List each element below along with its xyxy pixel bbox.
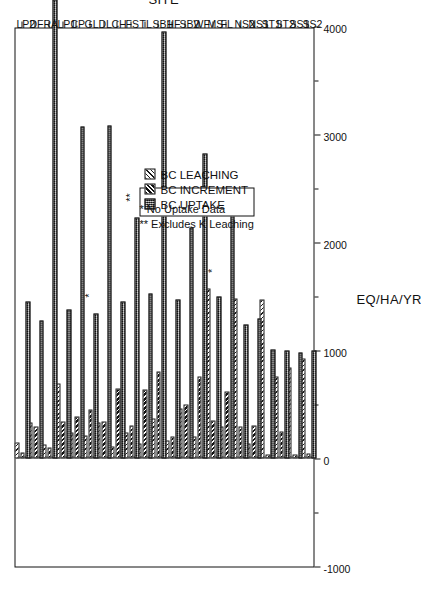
category-label-lp1: LP1	[57, 17, 76, 29]
bar-bc-increment-ch	[115, 388, 120, 458]
bar-bc-uptake-lp1	[66, 309, 71, 458]
value-axis-title: EQ/HA/YR	[356, 291, 421, 306]
category-label-ra: RA	[43, 17, 58, 29]
bar-bc-increment-lp2	[20, 452, 25, 458]
bar-bc-increment-wf	[197, 376, 202, 458]
category-label-lp2: LP2	[16, 17, 35, 29]
bar-bc-increment-ra	[47, 447, 52, 458]
bar-bc-increment-st1	[265, 454, 270, 458]
category-label-gl: GL	[84, 17, 98, 29]
bar-bc-increment-fl	[224, 391, 229, 458]
legend-item-bc-leaching: BC LEACHING	[144, 166, 244, 181]
value-tick-label--1000: -1000	[323, 562, 350, 574]
bar-bc-uptake-gl	[93, 313, 98, 458]
bar-bc-increment-ms	[210, 420, 215, 458]
bar-bc-uptake-ns1	[257, 318, 262, 458]
bar-bc-increment-fs	[129, 425, 134, 458]
bar-bc-uptake-tl	[148, 293, 153, 458]
plot-area: ****	[14, 27, 314, 567]
category-label-sb1: SB1	[152, 17, 172, 29]
bar-bc-increment-cp	[74, 416, 79, 458]
category-label-sb2: SB2	[179, 17, 199, 29]
value-minor-tick	[314, 512, 318, 513]
bar-bc-uptake-dl	[107, 125, 112, 458]
bar-bc-uptake-sb1	[161, 31, 166, 458]
bar-bc-leaching-lp2	[14, 442, 19, 458]
category-axis-title: SITE	[148, 0, 179, 6]
value-tick--1000	[314, 566, 320, 567]
bar-bc-uptake-ms	[216, 296, 221, 458]
bar-bc-uptake-st1	[270, 349, 275, 458]
bar-bc-uptake-lp2	[25, 301, 30, 458]
bar-bc-increment-ss2	[306, 453, 311, 458]
bar-bc-uptake-df	[39, 320, 44, 458]
bar-bc-uptake-st2	[284, 350, 289, 458]
category-label-tl: TL	[139, 17, 151, 29]
bar-bc-uptake-ch	[120, 301, 125, 458]
annotation-gl: *	[84, 293, 92, 297]
value-tick-label-3000: 3000	[323, 130, 346, 142]
value-tick-label-1000: 1000	[323, 346, 346, 358]
bar-bc-increment-dl	[101, 421, 106, 458]
bar-bc-increment-ss1	[292, 454, 297, 458]
category-label-ns2: NS2	[234, 17, 254, 29]
bar-bc-increment-hf	[170, 436, 175, 458]
bar-bc-uptake-ns2	[243, 324, 248, 458]
bar-bc-uptake-ra	[52, 0, 57, 458]
category-label-fs: FS	[125, 17, 138, 29]
category-label-dl: DL	[98, 17, 111, 29]
bar-bc-increment-ns2	[238, 426, 243, 458]
value-tick-2000	[314, 242, 320, 243]
value-minor-tick	[314, 404, 318, 405]
legend-label-bc-leaching: BC LEACHING	[160, 168, 238, 180]
annotation-ms: *	[207, 268, 215, 272]
legend-label-bc-increment: BC INCREMENT	[160, 183, 248, 195]
value-minor-tick	[314, 296, 318, 297]
value-tick-0	[314, 458, 320, 459]
bar-bc-increment-sb2	[183, 404, 188, 458]
value-minor-tick	[314, 80, 318, 81]
annotation-fs: **	[125, 193, 133, 202]
bar-bc-increment-lp1	[60, 421, 65, 458]
bar-bc-increment-st2	[279, 431, 284, 458]
value-tick-label-4000: 4000	[323, 22, 346, 34]
value-tick-label-0: 0	[323, 454, 329, 466]
bar-bc-increment-ns1	[251, 425, 256, 458]
legend-swatch-bc-increment	[144, 183, 155, 194]
legend-item-bc-increment: BC INCREMENT	[144, 181, 244, 196]
bar-bc-uptake-hf	[175, 299, 180, 458]
value-tick-label-2000: 2000	[323, 238, 346, 250]
legend-swatch-bc-leaching	[144, 168, 155, 179]
value-minor-tick	[314, 188, 318, 189]
value-tick-1000	[314, 350, 320, 351]
footnote-excludes-k-leaching: ** Excludes K Leaching	[139, 217, 249, 232]
bar-bc-uptake-ss1	[298, 352, 303, 458]
bar-bc-increment-tl	[142, 389, 147, 458]
bar-bc-increment-gl	[88, 409, 93, 458]
bar-bc-uptake-fl	[230, 204, 235, 458]
bar-bc-uptake-sb2	[189, 227, 194, 458]
bar-bc-increment-df	[33, 426, 38, 458]
bar-bc-increment-sb1	[156, 371, 161, 458]
footnote-no-uptake-data: * No Uptake Data	[139, 202, 249, 217]
category-label-ch: CH	[111, 17, 126, 29]
bar-bc-uptake-fs	[134, 217, 139, 458]
bar-bc-uptake-cp	[80, 126, 85, 458]
value-tick-3000	[314, 134, 320, 135]
